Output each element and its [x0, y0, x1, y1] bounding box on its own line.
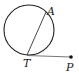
- label-T: T: [23, 57, 32, 70]
- chord-TA: [27, 12, 46, 55]
- label-P: P: [65, 61, 74, 73]
- tangent-TP: [27, 56, 71, 58]
- point-P-dot: [69, 55, 73, 59]
- geometry-diagram: A T P: [0, 0, 79, 73]
- label-A: A: [46, 5, 55, 18]
